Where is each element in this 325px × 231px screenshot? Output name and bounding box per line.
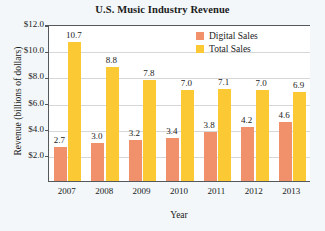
bar-total-sales-2012[interactable] bbox=[256, 90, 269, 182]
x-axis-tick-label-2008: 2008 bbox=[84, 186, 124, 196]
legend-label-total: Total Sales bbox=[209, 44, 251, 54]
bar-value-label: 7.0 bbox=[246, 78, 276, 88]
bar-value-label: 6.9 bbox=[284, 80, 314, 90]
bar-value-label: 3.4 bbox=[157, 126, 187, 136]
y-axis-tick-label: $4.0 bbox=[0, 124, 44, 134]
bar-digital-sales-2007[interactable] bbox=[54, 147, 67, 182]
bar-value-label: 7.0 bbox=[171, 78, 201, 88]
bar-digital-sales-2013[interactable] bbox=[279, 122, 292, 182]
chart-figure: U.S. Music Industry Revenue Revenue (bil… bbox=[0, 0, 325, 231]
x-axis-tick-label-2013: 2013 bbox=[271, 186, 311, 196]
gridline bbox=[49, 157, 310, 158]
y-axis-tick-mark bbox=[45, 25, 49, 26]
legend-swatch-icon-total bbox=[196, 45, 204, 53]
y-axis-tick-mark bbox=[45, 130, 49, 131]
x-axis-tick-label-2009: 2009 bbox=[122, 186, 162, 196]
legend-label-digital: Digital Sales bbox=[209, 31, 258, 41]
y-axis-tick-mark bbox=[45, 78, 49, 79]
bar-digital-sales-2010[interactable] bbox=[166, 138, 179, 182]
x-axis-tick-label-2012: 2012 bbox=[234, 186, 274, 196]
x-axis-tick-label-2011: 2011 bbox=[196, 186, 236, 196]
bar-value-label: 10.7 bbox=[59, 30, 89, 40]
y-axis-tick-label: $8.0 bbox=[0, 71, 44, 81]
y-axis-tick-mark bbox=[45, 104, 49, 105]
y-axis-tick-label: $10.0 bbox=[0, 45, 44, 55]
bar-value-label: 3.8 bbox=[194, 120, 224, 130]
gridline bbox=[49, 105, 310, 106]
legend-swatch-icon-digital bbox=[196, 32, 204, 40]
bar-value-label: 2.7 bbox=[44, 135, 74, 145]
y-axis-tick-mark bbox=[45, 156, 49, 157]
bar-digital-sales-2008[interactable] bbox=[91, 143, 104, 182]
bar-value-label: 3.0 bbox=[82, 131, 112, 141]
x-axis-tick-label-2007: 2007 bbox=[47, 186, 87, 196]
bar-total-sales-2011[interactable] bbox=[218, 89, 231, 182]
bar-value-label: 7.1 bbox=[209, 77, 239, 87]
y-axis-tick-mark bbox=[45, 52, 49, 53]
y-axis-tick-label: $6.0 bbox=[0, 98, 44, 108]
legend-item-digital-sales: Digital Sales bbox=[196, 29, 258, 42]
x-axis-tick-label-2010: 2010 bbox=[159, 186, 199, 196]
x-axis-line bbox=[48, 181, 310, 182]
bar-value-label: 4.2 bbox=[232, 115, 262, 125]
y-axis-tick-label: $2.0 bbox=[0, 150, 44, 160]
gridline bbox=[49, 52, 310, 53]
chart-title: U.S. Music Industry Revenue bbox=[0, 4, 325, 16]
bar-value-label: 3.2 bbox=[119, 128, 149, 138]
bar-digital-sales-2011[interactable] bbox=[204, 132, 217, 182]
bar-digital-sales-2012[interactable] bbox=[241, 127, 254, 182]
bar-digital-sales-2009[interactable] bbox=[129, 140, 142, 182]
x-axis-label: Year bbox=[48, 210, 310, 220]
bar-total-sales-2013[interactable] bbox=[293, 92, 306, 182]
plot-area bbox=[48, 25, 310, 182]
bar-value-label: 7.8 bbox=[134, 68, 164, 78]
bar-value-label: 8.8 bbox=[96, 55, 126, 65]
bar-total-sales-2008[interactable] bbox=[106, 67, 119, 182]
bar-total-sales-2010[interactable] bbox=[181, 90, 194, 182]
legend-item-total-sales: Total Sales bbox=[196, 42, 258, 55]
bar-value-label: 4.6 bbox=[269, 110, 299, 120]
bar-total-sales-2007[interactable] bbox=[68, 42, 81, 182]
y-axis-tick-label: $12.0 bbox=[0, 19, 44, 29]
chart-legend: Digital Sales Total Sales bbox=[196, 29, 258, 55]
